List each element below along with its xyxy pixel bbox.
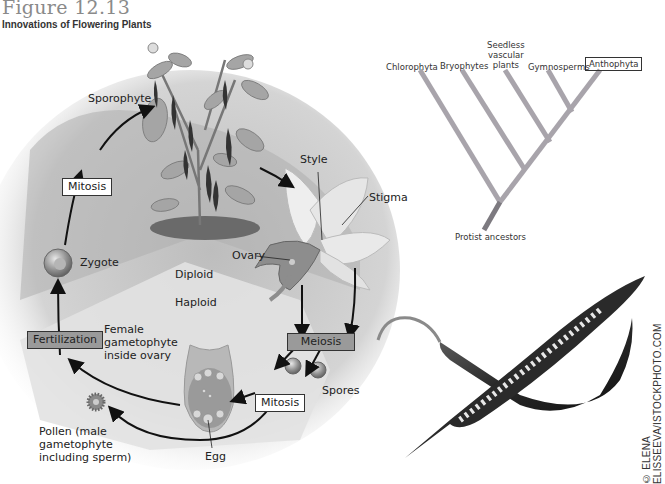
- haploid-label: Haploid: [175, 296, 217, 309]
- clado-taxon-chlorophyta: Chlorophyta: [386, 62, 438, 72]
- style-label: Style: [300, 153, 328, 166]
- pollen-label: Pollen (male gametophyte including sperm…: [39, 425, 131, 464]
- mitosis-box-bottom: Mitosis: [255, 394, 305, 412]
- clado-taxon-bryophytes: Bryophytes: [440, 61, 488, 71]
- pollen-grain-icon: [88, 394, 104, 410]
- meiosis-box: Meiosis: [287, 333, 355, 351]
- clado-taxon-seedless-vascular: Seedless vascular plants: [487, 40, 525, 70]
- photo-credit: © ELENA ELISSEEVA/ISTOCKPHOTO.COM: [641, 300, 663, 484]
- zygote-cell-icon: [44, 249, 72, 277]
- chili-pepper-photo: [378, 276, 645, 458]
- sporophyte-label: Sporophyte: [88, 92, 151, 105]
- zygote-label: Zygote: [80, 256, 119, 269]
- stigma-label: Stigma: [369, 191, 408, 204]
- cladogram-branches: [420, 70, 600, 230]
- spores-label: Spores: [322, 384, 359, 397]
- clado-root-label: Protist ancestors: [455, 232, 526, 242]
- clado-taxon-gymnosperms: Gymnosperms: [528, 62, 590, 72]
- mitosis-box-top: Mitosis: [62, 178, 112, 196]
- diploid-label: Diploid: [175, 268, 213, 281]
- female-gametophyte-label: Female gametophyte inside ovary: [104, 323, 178, 362]
- fertilization-box: Fertilization: [27, 331, 103, 349]
- clado-taxon-anthophyta: Anthophyta: [585, 57, 642, 71]
- life-cycle-artwork: [0, 0, 665, 484]
- egg-label: Egg: [205, 450, 226, 463]
- ovary-label: Ovary: [232, 249, 265, 262]
